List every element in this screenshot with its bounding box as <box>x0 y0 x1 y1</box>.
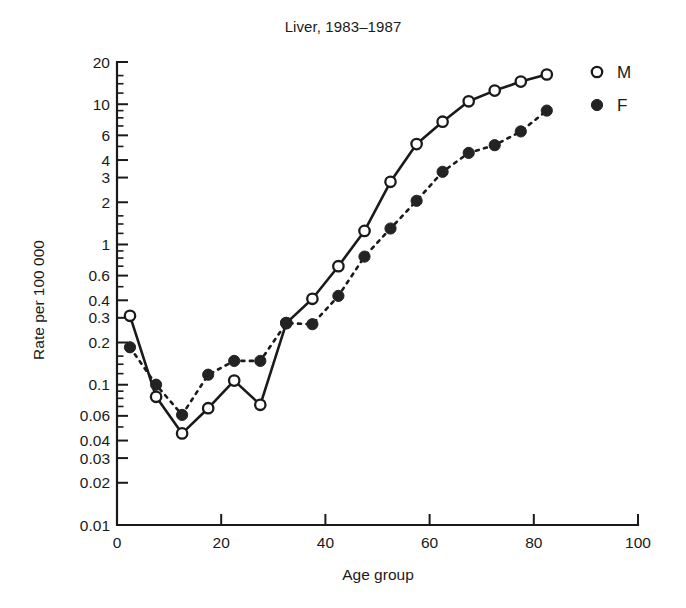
y-tick-label: 0.4 <box>88 292 110 309</box>
data-point-f <box>229 355 240 366</box>
data-point-m <box>255 400 265 410</box>
data-point-f <box>333 290 344 301</box>
data-point-f <box>541 105 552 116</box>
x-tick-label: 0 <box>113 534 122 551</box>
x-tick-label: 80 <box>525 534 543 551</box>
y-tick-label: 6 <box>101 127 110 144</box>
legend-marker-m <box>592 67 602 77</box>
y-tick-label: 2 <box>101 194 110 211</box>
y-tick-label: 3 <box>101 169 110 186</box>
axis-frame <box>117 62 638 525</box>
data-point-f <box>177 409 188 420</box>
data-point-f <box>463 147 474 158</box>
data-point-m <box>411 139 421 149</box>
data-point-f <box>151 379 162 390</box>
series-line-m <box>130 75 547 434</box>
y-tick-label: 4 <box>101 152 110 169</box>
data-point-f <box>411 195 422 206</box>
data-point-f <box>307 319 318 330</box>
data-point-m <box>464 96 474 106</box>
legend-marker-f <box>591 99 602 110</box>
data-point-f <box>281 318 292 329</box>
data-point-m <box>307 294 317 304</box>
y-tick-label: 10 <box>93 96 111 113</box>
series-markers <box>124 69 552 438</box>
y-axis-title: Rate per 100 000 <box>30 240 47 360</box>
data-point-m <box>229 375 239 385</box>
data-point-f <box>515 126 526 137</box>
data-point-m <box>333 261 343 271</box>
data-point-f <box>255 355 266 366</box>
data-point-m <box>385 177 395 187</box>
y-tick-label: 0.03 <box>80 450 110 467</box>
y-tick-label: 0.02 <box>80 474 110 491</box>
y-tick-label: 0.04 <box>80 432 111 449</box>
data-point-m <box>437 117 447 127</box>
x-tick-label: 100 <box>625 534 651 551</box>
legend-label-m: M <box>617 63 631 82</box>
legend-label-f: F <box>617 96 627 115</box>
data-point-m <box>177 428 187 438</box>
y-tick-label: 20 <box>93 54 111 71</box>
data-point-m <box>151 392 161 402</box>
data-point-f <box>359 251 370 262</box>
data-point-m <box>203 403 213 413</box>
data-point-f <box>489 140 500 151</box>
plot-area: 2010643210.60.40.30.20.10.060.040.030.02… <box>0 0 686 608</box>
y-axis-tick-labels: 2010643210.60.40.30.20.10.060.040.030.02… <box>80 54 111 534</box>
x-tick-label: 20 <box>213 534 231 551</box>
data-point-m <box>125 311 135 321</box>
data-point-f <box>124 342 135 353</box>
data-point-f <box>203 369 214 380</box>
x-axis-ticks <box>117 514 638 525</box>
x-tick-label: 40 <box>317 534 335 551</box>
y-tick-label: 0.06 <box>80 407 110 424</box>
series-lines <box>130 75 547 434</box>
data-point-m <box>490 85 500 95</box>
y-tick-label: 0.3 <box>88 309 110 326</box>
y-tick-label: 0.01 <box>80 517 110 534</box>
y-tick-label: 0.2 <box>88 334 110 351</box>
x-tick-label: 60 <box>421 534 439 551</box>
y-tick-label: 0.6 <box>88 267 110 284</box>
data-point-m <box>359 226 369 236</box>
data-point-f <box>385 223 396 234</box>
x-axis-tick-labels: 020406080100 <box>113 534 652 551</box>
data-point-m <box>542 69 552 79</box>
data-point-m <box>516 76 526 86</box>
data-point-f <box>437 166 448 177</box>
chart-legend: MF <box>591 63 631 115</box>
chart-figure: Liver, 1983–1987 2010643210.60.40.30.20.… <box>0 0 686 608</box>
y-tick-label: 0.1 <box>88 376 110 393</box>
y-axis-major-ticks <box>117 62 128 525</box>
y-tick-label: 1 <box>101 236 110 253</box>
x-axis-title: Age group <box>342 566 414 583</box>
